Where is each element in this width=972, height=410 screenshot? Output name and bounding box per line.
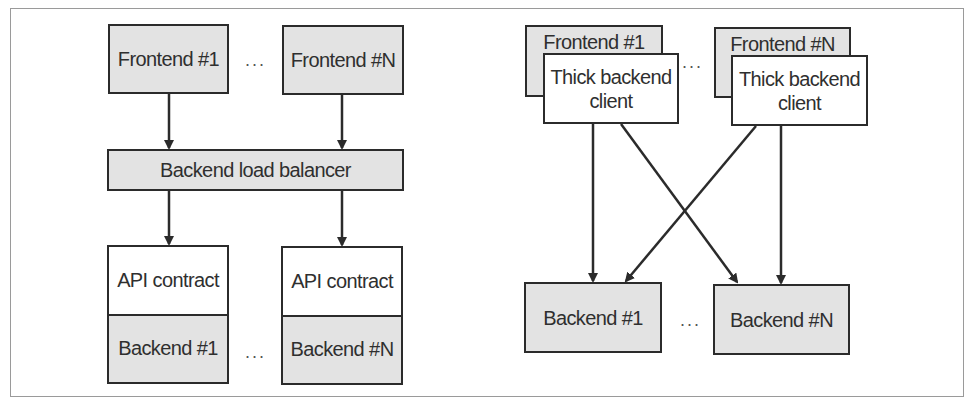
arrow-tcn-be1 <box>626 126 756 281</box>
arrow-tc1-ben <box>621 124 737 282</box>
connector-arrows <box>0 0 972 410</box>
